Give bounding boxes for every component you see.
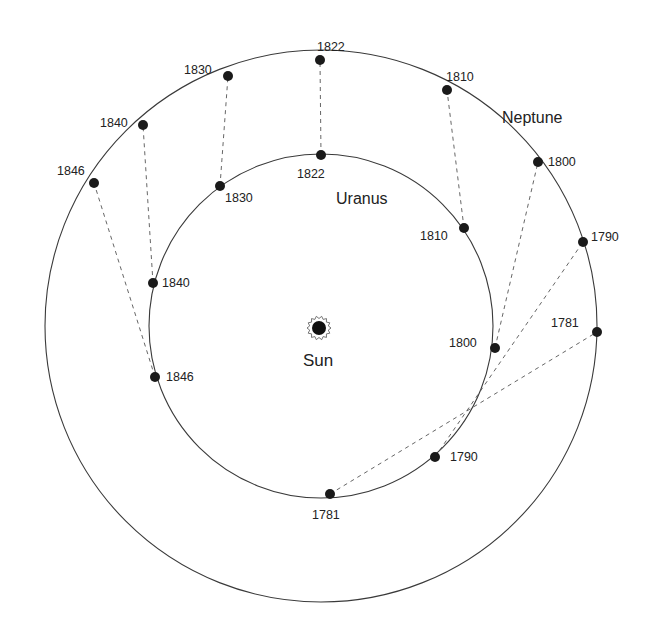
uranus-year-label-1822: 1822 <box>297 167 325 181</box>
uranus-position-1830 <box>215 181 225 191</box>
sightline-1840 <box>143 125 153 283</box>
uranus-position-1822 <box>316 150 326 160</box>
sightline-1846 <box>94 183 155 377</box>
uranus-year-label-1846: 1846 <box>166 370 194 384</box>
neptune-year-label-1810: 1810 <box>446 70 474 84</box>
sightline-1810 <box>447 90 464 228</box>
neptune-year-label-1800: 1800 <box>548 155 576 169</box>
sun-icon <box>307 316 331 339</box>
neptune-year-label-1830: 1830 <box>184 63 212 77</box>
neptune-position-1800 <box>533 157 543 167</box>
orbit-diagram: NeptuneUranus178117901800181018221830184… <box>0 0 646 626</box>
neptune-year-label-1781: 1781 <box>551 316 579 330</box>
orbit-label-neptune: Neptune <box>502 109 563 126</box>
uranus-year-label-1830: 1830 <box>225 191 253 205</box>
uranus-year-label-1781: 1781 <box>312 508 340 522</box>
uranus-year-label-1810: 1810 <box>420 229 448 243</box>
sun-label: Sun <box>303 351 333 370</box>
neptune-position-1840 <box>138 120 148 130</box>
uranus-year-label-1790: 1790 <box>450 450 478 464</box>
neptune-position-1822 <box>315 55 325 65</box>
neptune-year-label-1822: 1822 <box>317 40 345 54</box>
orbit-diagram-canvas: NeptuneUranus178117901800181018221830184… <box>0 0 646 626</box>
neptune-position-1781 <box>592 327 602 337</box>
uranus-position-1800 <box>490 343 500 353</box>
sun-core-icon <box>312 321 326 335</box>
uranus-position-1840 <box>148 278 158 288</box>
labels-layer: NeptuneUranus178117901800181018221830184… <box>57 40 619 522</box>
sightline-1822 <box>320 60 321 155</box>
neptune-year-label-1790: 1790 <box>591 230 619 244</box>
neptune-year-label-1840: 1840 <box>100 116 128 130</box>
neptune-year-label-1846: 1846 <box>57 164 85 178</box>
uranus-year-label-1800: 1800 <box>449 336 477 350</box>
uranus-position-1790 <box>430 452 440 462</box>
orbit-label-uranus: Uranus <box>336 190 388 207</box>
sightline-1830 <box>220 76 228 186</box>
uranus-position-1781 <box>325 489 335 499</box>
uranus-position-1846 <box>150 372 160 382</box>
uranus-position-1810 <box>459 223 469 233</box>
neptune-position-1810 <box>442 85 452 95</box>
sightline-1800 <box>495 162 538 348</box>
neptune-position-1830 <box>223 71 233 81</box>
neptune-position-1846 <box>89 178 99 188</box>
neptune-position-1790 <box>578 237 588 247</box>
uranus-year-label-1840: 1840 <box>162 276 190 290</box>
